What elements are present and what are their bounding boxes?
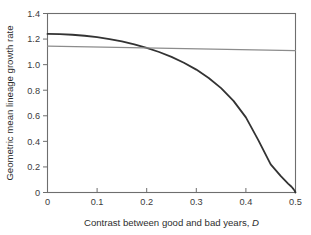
x-tick-label-5: 0.5: [289, 197, 302, 207]
y-tick-label-1: 0.2: [27, 162, 40, 172]
x-tick-label-3: 0.3: [190, 197, 203, 207]
x-tick-label-0: 0: [45, 197, 50, 207]
y-tick-label-2: 0.4: [27, 137, 40, 147]
y-tick-label-6: 1.2: [27, 34, 40, 44]
x-tick-label-1: 0.1: [91, 197, 104, 207]
chart-figure: 00.10.20.30.40.5 00.20.40.60.81.01.21.4 …: [0, 0, 311, 235]
x-axis-title: Contrast between good and bad years, D: [84, 217, 259, 228]
y-tick-label-4: 0.8: [27, 86, 40, 96]
y-axis-title: Geometric mean lineage growth rate: [4, 25, 15, 180]
y-tick-label-5: 1.0: [27, 60, 40, 70]
y-tick-label-7: 1.4: [27, 9, 40, 19]
y-tick-label-3: 0.6: [27, 111, 40, 121]
x-tick-label-2: 0.2: [140, 197, 153, 207]
x-tick-label-4: 0.4: [240, 197, 253, 207]
chart-plot-svg: 00.10.20.30.40.5 00.20.40.60.81.01.21.4 …: [0, 0, 311, 235]
y-tick-label-0: 0: [35, 188, 40, 198]
